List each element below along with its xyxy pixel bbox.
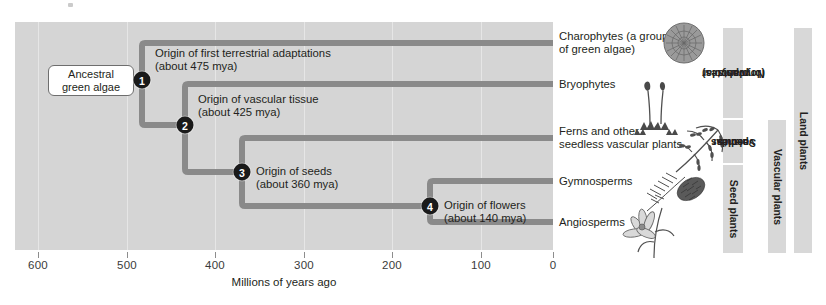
axis-tick-label-400: 400 [205, 259, 225, 271]
gridline-500 [127, 22, 128, 250]
node-badge-2[interactable]: 2 [177, 117, 194, 134]
axis-tick-0 [553, 252, 554, 258]
axis-tick-400 [215, 252, 216, 258]
node-annotation-4-title: Origin of flowers [444, 199, 526, 212]
axis-tick-100 [481, 252, 482, 258]
axis-tick-600 [38, 252, 39, 258]
node-badge-3[interactable]: 3 [234, 164, 251, 181]
bracket-vascular-plants: Vascular plants [768, 120, 786, 253]
node-annotation-2-title: Origin of vascular tissue [198, 93, 319, 106]
bracket-seedless-vascular-plants: Seedless vascular plants [723, 120, 743, 163]
taxon-gymnosperms-line1: Gymnosperms [559, 175, 632, 188]
node-annotation-1-subtitle: (about 475 mya) [155, 60, 331, 73]
node-annotation-2-subtitle: (about 425 mya) [198, 106, 319, 119]
axis-tick-label-200: 200 [382, 259, 402, 271]
taxon-angiosperms-line1: Angiosperms [559, 216, 625, 229]
node-annotation-1-title: Origin of first terrestrial adaptations [155, 47, 331, 60]
bracket-vascular-plants-label: Vascular plants [771, 148, 782, 224]
bracket-land-plants-label: Land plants [797, 111, 808, 169]
axis-tick-label-0: 0 [550, 259, 557, 271]
ancestral-label-line2: green algae [62, 81, 120, 93]
node-annotation-4-subtitle: (about 140 mya) [444, 212, 526, 225]
taxon-charophytes-line1: Charophytes (a group [559, 30, 668, 43]
axis-tick-label-500: 500 [117, 259, 137, 271]
axis-tick-500 [127, 252, 128, 258]
axis-tick-label-300: 300 [294, 259, 314, 271]
taxon-label-bryophytes: Bryophytes [559, 78, 616, 91]
node-annotation-4: Origin of flowers (about 140 mya) [444, 199, 526, 225]
taxon-label-gymnosperms: Gymnosperms [559, 175, 632, 188]
angiosperm-flower-illustration [618, 202, 686, 260]
axis-tick-300 [304, 252, 305, 258]
node-badge-4[interactable]: 4 [422, 198, 439, 215]
taxon-label-angiosperms: Angiosperms [559, 216, 625, 229]
gridline-200 [392, 22, 393, 250]
phylogenetic-tree-figure: Ancestral green algae 1 2 3 4 Origin of … [0, 0, 826, 305]
node-badge-1[interactable]: 1 [134, 72, 151, 89]
node-annotation-3-subtitle: (about 360 mya) [256, 178, 338, 191]
bracket-nonvascular-plants: Nonvascular plants (bryophytes) [723, 28, 743, 118]
ancestral-label-line1: Ancestral [68, 68, 114, 80]
taxon-bryophytes-line1: Bryophytes [559, 78, 616, 91]
axis-title: Millions of years ago [15, 276, 553, 288]
axis-tick-label-600: 600 [28, 259, 48, 271]
node-annotation-2: Origin of vascular tissue (about 425 mya… [198, 93, 319, 119]
node-annotation-3: Origin of seeds (about 360 mya) [256, 165, 338, 191]
taxon-charophytes-line2: of green algae) [559, 43, 668, 56]
gridline-600 [38, 22, 39, 250]
bracket-land-plants: Land plants [794, 28, 812, 253]
taxon-label-charophytes: Charophytes (a group of green algae) [559, 30, 668, 56]
bracket-seed-plants-label: Seed plants [727, 180, 738, 238]
top-artifact-mark [68, 3, 73, 7]
charophyte-algae-illustration [663, 22, 705, 64]
bracket-seed-plants: Seed plants [723, 165, 743, 253]
bracket-nonvascular-line3: (bryophytes) [702, 67, 765, 78]
node-annotation-1: Origin of first terrestrial adaptations … [155, 47, 331, 73]
axis-tick-200 [392, 252, 393, 258]
axis-tick-label-100: 100 [471, 259, 491, 271]
ancestral-green-algae-box: Ancestral green algae [48, 65, 134, 96]
bracket-seedless-line3: plants [718, 136, 749, 147]
taxon-ferns-line2: seedless vascular plants [559, 138, 682, 151]
node-annotation-3-title: Origin of seeds [256, 165, 338, 178]
ancestral-label: Ancestral green algae [62, 68, 120, 93]
